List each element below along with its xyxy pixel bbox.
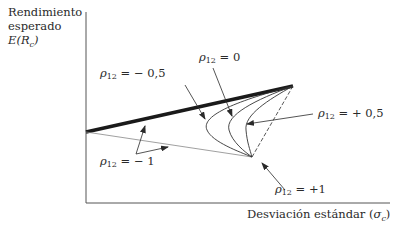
rho-symbol: ρ xyxy=(100,66,107,80)
rho-sub: 12 xyxy=(107,72,117,81)
label-rho-minus05: ρ12 = − 0,5 xyxy=(100,66,165,81)
y-axis-label: Rendimiento esperado E(Rc) xyxy=(8,5,82,52)
rho-sub: 12 xyxy=(107,160,117,169)
rho-sub: 12 xyxy=(325,112,335,121)
rho-value: = +1 xyxy=(292,182,326,196)
y-label-symbol: E(Rc) xyxy=(8,33,82,52)
y-label-line1: Rendimiento xyxy=(8,5,82,19)
rho-value: = − 1 xyxy=(117,154,155,168)
arrow-rho-plus05 xyxy=(247,114,313,124)
frontier-rho-plus1 xyxy=(252,86,293,157)
rho-symbol: ρ xyxy=(318,106,325,120)
label-rho-plus1: ρ12 = +1 xyxy=(275,182,326,197)
rho-sub: 12 xyxy=(282,188,292,197)
y-label-line2: esperado xyxy=(8,19,82,33)
label-rho-minus1: ρ12 = − 1 xyxy=(100,154,155,169)
rho-value: = + 0,5 xyxy=(335,106,384,120)
label-rho-plus05: ρ12 = + 0,5 xyxy=(318,106,383,121)
rho-symbol: ρ xyxy=(100,154,107,168)
rho-value: = − 0,5 xyxy=(117,66,166,80)
rho-value: = 0 xyxy=(216,50,240,64)
x-label-close: ) xyxy=(386,207,391,221)
x-label-text: Desviación estándar ( xyxy=(247,207,374,221)
label-rho-0: ρ12 = 0 xyxy=(199,50,240,65)
arrow-rho-minus05 xyxy=(185,85,205,119)
x-axis-label: Desviación estándar (σc) xyxy=(247,207,390,223)
y-close: ) xyxy=(34,33,39,47)
y-symbol: E(R xyxy=(8,33,30,47)
rho-symbol: ρ xyxy=(275,182,282,196)
arrow-rho-minus1-b xyxy=(136,147,168,154)
rho-sub: 12 xyxy=(206,56,216,65)
rho-symbol: ρ xyxy=(199,50,206,64)
arrow-rho-0 xyxy=(213,68,232,116)
